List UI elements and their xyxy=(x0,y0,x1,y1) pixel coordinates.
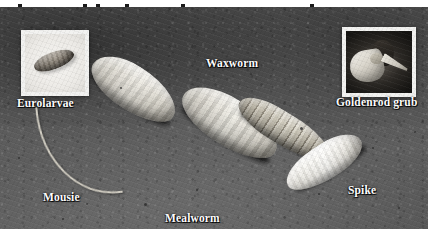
label-waxworm: Waxworm xyxy=(206,57,258,69)
goldenrod-grub-specimen xyxy=(370,53,383,64)
eurolarvae-specimen xyxy=(31,45,76,76)
bait-larvae-comparison-figure: Eurolarvae Mousie Waxworm Mealworm Golde… xyxy=(0,0,428,229)
inset-photo-eurolarvae xyxy=(21,30,89,96)
label-spike: Spike xyxy=(348,184,376,196)
eurolarvae-photo xyxy=(25,34,85,92)
label-eurolarvae: Eurolarvae xyxy=(17,97,74,109)
surface-speck xyxy=(18,157,20,159)
surface-speck xyxy=(144,203,147,206)
surface-speck xyxy=(414,131,416,133)
label-mealworm: Mealworm xyxy=(165,212,220,224)
surface-speck xyxy=(62,218,64,220)
surface-speck xyxy=(86,203,88,205)
surface-speck xyxy=(250,73,252,75)
inset-photo-goldenrod-grub xyxy=(342,27,416,97)
surface-speck xyxy=(318,193,320,195)
label-goldenrod-grub: Goldenrod grub xyxy=(336,96,417,108)
surface-speck xyxy=(196,189,198,191)
surface-speck xyxy=(398,207,400,209)
label-mousie: Mousie xyxy=(43,191,80,203)
goldenrod-grub-photo xyxy=(346,31,412,93)
cropped-caption-strip xyxy=(0,0,428,7)
mousie-tail xyxy=(35,99,122,201)
photo-plate: Eurolarvae Mousie Waxworm Mealworm Golde… xyxy=(0,7,428,229)
surface-speck xyxy=(120,87,122,89)
surface-speck xyxy=(372,147,374,149)
surface-speck xyxy=(300,127,303,130)
